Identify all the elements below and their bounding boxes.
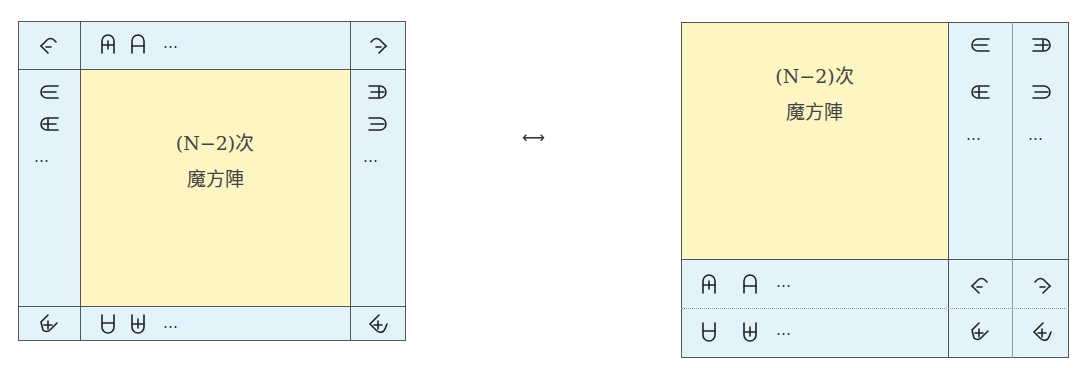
open-right-plus-icon: [968, 80, 992, 104]
open-right-minus-icon: [37, 80, 61, 104]
inner-square-label: (N−2)次 魔方陣: [681, 58, 948, 130]
ellipsis: …: [34, 148, 50, 166]
open-right-plus-icon: [37, 112, 61, 136]
cup-plus-right-icon: [1030, 320, 1054, 344]
arch-minus-icon: [126, 32, 150, 56]
open-left-minus-icon: [366, 112, 390, 136]
left-grid-line: [18, 69, 406, 70]
ellipsis: …: [776, 321, 792, 339]
cup-minus-icon: [96, 312, 120, 336]
right-grid-line-dotted: [681, 308, 1069, 309]
ellipsis: …: [966, 126, 982, 144]
cup-plus-icon: [738, 320, 762, 344]
arch-minus-right-icon: [366, 32, 390, 56]
cup-plus-left-icon: [968, 320, 992, 344]
arch-minus-right-icon: [1030, 272, 1054, 296]
cup-minus-icon: [697, 320, 721, 344]
arch-minus-icon: [738, 272, 762, 296]
arch-minus-left-icon: [968, 272, 992, 296]
open-right-minus-icon: [968, 33, 992, 57]
label-magic-square: 魔方陣: [80, 161, 350, 197]
cup-plus-icon: [126, 312, 150, 336]
ellipsis: …: [163, 34, 179, 52]
cup-plus-right-icon: [366, 312, 390, 336]
ellipsis: …: [163, 314, 179, 332]
arch-plus-icon: [96, 32, 120, 56]
right-grid-line: [681, 259, 1069, 260]
inner-square-label: (N−2)次 魔方陣: [80, 125, 350, 197]
ellipsis: …: [1028, 126, 1044, 144]
left-grid-line: [18, 306, 406, 307]
open-left-plus-icon: [1030, 33, 1054, 57]
label-magic-square: 魔方陣: [681, 94, 948, 130]
label-order: (N−2)次: [681, 58, 948, 94]
arch-minus-left-icon: [37, 32, 61, 56]
label-order: (N−2)次: [80, 125, 350, 161]
ellipsis: …: [776, 273, 792, 291]
cup-plus-left-icon: [37, 312, 61, 336]
open-left-plus-icon: [366, 80, 390, 104]
ellipsis: …: [363, 148, 379, 166]
arch-plus-icon: [697, 272, 721, 296]
open-left-minus-icon: [1030, 80, 1054, 104]
double-arrow-icon: ⟷: [522, 128, 545, 147]
